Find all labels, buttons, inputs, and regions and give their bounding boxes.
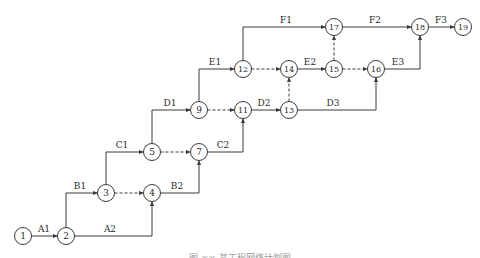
node-number: 4: [149, 188, 155, 198]
activity-labels: A1A2B1C1B2D1C2E1D2D3F1E2E3F2F3: [37, 15, 447, 234]
activity-label: A2: [103, 224, 116, 234]
node-number: 12: [238, 65, 248, 74]
event-node-13: 13: [281, 102, 298, 119]
event-node-14: 14: [281, 61, 298, 78]
activity-arrow-c1: [106, 152, 144, 185]
event-node-17: 17: [326, 19, 343, 36]
node-number: 3: [103, 188, 109, 198]
event-node-7: 7: [191, 144, 208, 161]
activity-label: C1: [116, 140, 129, 150]
activity-arrow-f1: [243, 27, 326, 61]
activity-arrow-e1: [199, 69, 235, 102]
network-diagram: A1A2B1C1B2D1C2E1D2D3F1E2E3F2F3 123457911…: [0, 0, 480, 258]
node-number: 16: [371, 65, 381, 74]
event-node-18: 18: [412, 19, 429, 36]
activity-label: C2: [217, 140, 230, 150]
event-node-16: 16: [368, 61, 385, 78]
event-node-15: 15: [326, 61, 343, 78]
event-node-12: 12: [235, 61, 252, 78]
event-node-19: 19: [455, 19, 472, 36]
activity-label: E2: [304, 57, 316, 67]
node-number: 13: [284, 106, 294, 115]
event-node-9: 9: [191, 102, 208, 119]
event-node-4: 4: [144, 185, 161, 202]
activity-label: B2: [171, 181, 183, 191]
node-number: 19: [458, 23, 468, 32]
activity-label: F2: [369, 15, 381, 25]
node-number: 7: [196, 147, 202, 157]
activity-label: F3: [435, 15, 447, 25]
node-number: 11: [238, 106, 248, 115]
activity-label: D2: [258, 98, 271, 108]
node-number: 15: [329, 65, 339, 74]
node-number: 17: [329, 23, 339, 32]
event-node-3: 3: [98, 185, 115, 202]
activity-label: D3: [327, 98, 340, 108]
node-number: 5: [149, 147, 155, 157]
event-node-1: 1: [15, 228, 32, 245]
node-number: 1: [20, 231, 26, 241]
node-number: 18: [415, 23, 425, 32]
activity-label: E3: [392, 57, 405, 67]
event-node-11: 11: [235, 102, 252, 119]
activity-arrow-b1: [66, 193, 98, 228]
activity-arrow-d1: [152, 110, 191, 144]
activity-label: B1: [74, 181, 86, 191]
node-number: 2: [63, 231, 69, 241]
activity-label: D1: [164, 98, 177, 108]
activity-label: A1: [37, 224, 50, 234]
activity-label: E1: [209, 57, 221, 67]
figure-caption: 图 ×× 某工程网络计划图: [0, 250, 480, 258]
node-number: 9: [196, 105, 202, 115]
event-node-5: 5: [144, 144, 161, 161]
node-number: 14: [284, 65, 294, 74]
event-node-2: 2: [58, 228, 75, 245]
activity-label: F1: [280, 15, 292, 25]
